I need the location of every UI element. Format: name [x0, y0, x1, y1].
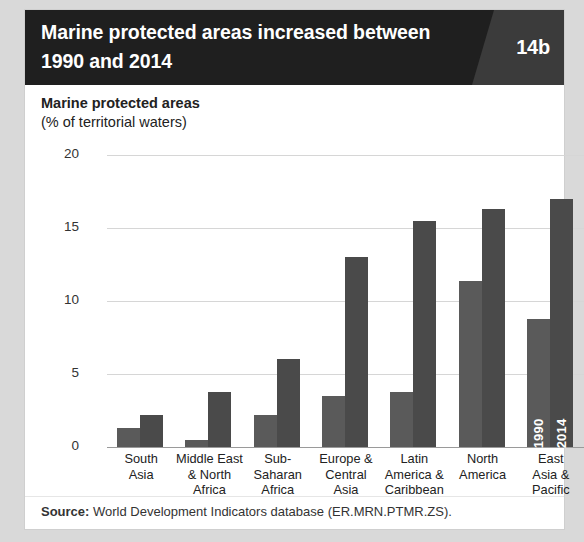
bar-2014-6	[482, 209, 505, 447]
y-axis-title: Marine protected areas (% of territorial…	[41, 94, 200, 132]
x-axis-label-5: LatinAmerica &Caribbean	[380, 451, 448, 498]
x-axis-label-3: Sub-SaharanAfrica	[244, 451, 312, 498]
x-axis-label-7: EastAsia &Pacific	[517, 451, 584, 498]
x-axis-label-1: SouthAsia	[107, 451, 175, 482]
source-label: Source:	[41, 504, 89, 519]
figure-title: Marine protected areas increased between…	[41, 18, 461, 76]
bar-1990-3	[254, 415, 277, 447]
bar-2014-7: 2014	[550, 199, 573, 447]
bar-1990-6	[459, 281, 482, 447]
y-axis-tick-label: 20	[39, 146, 79, 161]
bar-1990-5	[390, 392, 413, 447]
bar-series-label-1990: 1990	[531, 419, 546, 449]
y-axis-tick-label: 15	[39, 219, 79, 234]
bar-2014-3	[277, 359, 300, 447]
y-axis-title-main: Marine protected areas	[41, 94, 200, 113]
bar-1990-2	[185, 440, 208, 447]
y-axis-tick-label: 10	[39, 292, 79, 307]
bar-series-label-2014: 2014	[554, 419, 569, 449]
x-axis-label-4: Europe &CentralAsia	[312, 451, 380, 498]
bar-2014-2	[208, 392, 231, 447]
y-axis-tick-label: 0	[39, 438, 79, 453]
x-axis-label-2: Middle East& NorthAfrica	[175, 451, 243, 498]
y-axis-tick-label: 5	[39, 365, 79, 380]
source-note: Source: World Development Indicators dat…	[41, 504, 452, 519]
figure-number-panel: 14b	[472, 10, 564, 85]
y-axis-title-unit: (% of territorial waters)	[41, 113, 200, 132]
x-axis-label-6: NorthAmerica	[448, 451, 516, 482]
bar-2014-5	[413, 221, 436, 447]
chart-plot-area: 05101520 19902014	[82, 145, 564, 455]
figure-card: Marine protected areas increased between…	[25, 10, 564, 529]
bar-1990-1	[117, 428, 140, 447]
bar-1990-7: 1990	[527, 319, 550, 447]
bar-1990-4	[322, 396, 345, 447]
source-body: World Development Indicators database (E…	[89, 504, 451, 519]
bar-2014-4	[345, 257, 368, 447]
bars-layer: 19902014	[82, 145, 564, 455]
figure-number-label: 14b	[516, 36, 550, 59]
bar-2014-1	[140, 415, 163, 447]
figure-page: Marine protected areas increased between…	[0, 0, 584, 542]
figure-header: Marine protected areas increased between…	[25, 10, 564, 85]
source-bar: Source: World Development Indicators dat…	[25, 496, 564, 529]
